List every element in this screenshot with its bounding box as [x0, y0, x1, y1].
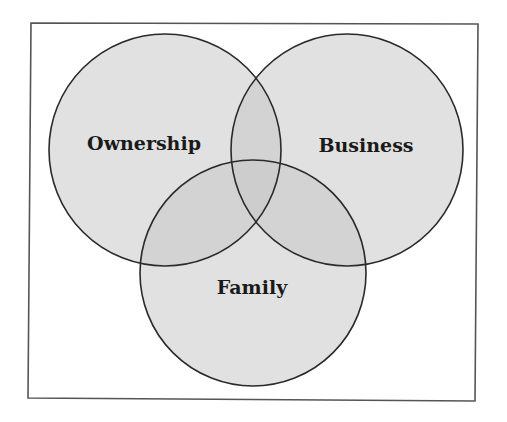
label-family: Family: [217, 276, 288, 298]
label-business: Business: [318, 134, 413, 156]
label-ownership: Ownership: [87, 132, 201, 154]
venn-diagram: Ownership Business Family: [0, 0, 507, 422]
venn-circles: [49, 34, 463, 386]
circle-family: [140, 160, 366, 386]
